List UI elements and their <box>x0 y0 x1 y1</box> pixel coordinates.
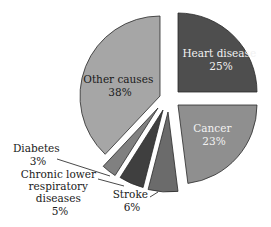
label-chronic-lower-respiratory: Chronic lower respiratory diseases 5% <box>21 168 100 217</box>
leader-chronic-lower-respiratory <box>98 179 124 186</box>
label-diabetes: Diabetes 3% <box>13 142 63 167</box>
label-stroke: Stroke 6% <box>113 188 152 213</box>
pie-chart: Heart disease 25% Cancer 23% Other cause… <box>0 0 271 227</box>
